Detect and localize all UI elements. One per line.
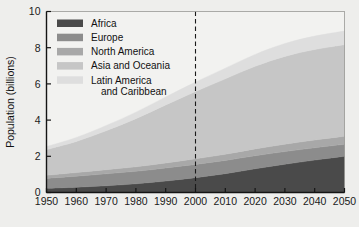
legend-label-continuation: and Caribbean (101, 86, 167, 97)
x-tick-label: 2020 (243, 195, 267, 207)
x-tick-label: 2030 (273, 195, 297, 207)
x-tick-label: 1980 (124, 195, 148, 207)
y-tick-label: 8 (35, 42, 41, 54)
legend-swatch (57, 76, 83, 84)
population-stacked-area-chart: 1950196019701980199020002010202020302040… (0, 0, 359, 227)
x-tick-label: 2000 (184, 195, 208, 207)
chart-canvas: 1950196019701980199020002010202020302040… (0, 0, 359, 227)
y-axis-title-text: Population (billions) (4, 56, 16, 148)
x-tick-label: 1970 (94, 195, 118, 207)
y-tick-label: 4 (35, 114, 41, 126)
y-tick-label: 2 (35, 150, 41, 162)
legend-label: North America (91, 46, 155, 57)
legend-swatch (57, 48, 83, 56)
x-tick-label: 1960 (65, 195, 89, 207)
x-tick-label: 2010 (214, 195, 238, 207)
y-tick-label: 10 (29, 5, 41, 17)
legend-swatch (57, 62, 83, 70)
y-axis-title: Population (billions) (4, 56, 16, 148)
legend-label: Asia and Oceania (91, 60, 170, 71)
legend-swatch (57, 34, 83, 42)
x-tick-label: 2040 (303, 195, 327, 207)
y-tick-label: 6 (35, 78, 41, 90)
x-tick-label: 1990 (154, 195, 178, 207)
y-tick-label: 0 (35, 186, 41, 198)
legend-label: Latin America (91, 75, 152, 86)
x-tick-label: 2050 (333, 195, 357, 207)
legend-label: Europe (91, 32, 124, 43)
legend-swatch (57, 20, 83, 28)
legend-label: Africa (91, 18, 117, 29)
